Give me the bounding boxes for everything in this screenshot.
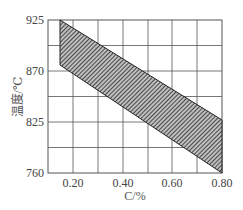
x-axis-label: C/% <box>124 189 145 203</box>
x-tick-label: 0.40 <box>113 176 134 190</box>
x-tick-label: 0.80 <box>212 176 233 190</box>
y-tick-label: 870 <box>26 64 44 78</box>
x-tick-label: 0.60 <box>162 176 183 190</box>
y-axis-label: 温度/℃ <box>10 77 25 118</box>
y-tick-label: 760 <box>26 166 44 180</box>
chart: 925 870 825 760 0.20 0.40 0.60 0.80 C/% … <box>0 0 243 210</box>
y-tick-label: 825 <box>26 115 44 129</box>
y-tick-label: 925 <box>26 13 44 27</box>
x-tick-label: 0.20 <box>63 176 84 190</box>
